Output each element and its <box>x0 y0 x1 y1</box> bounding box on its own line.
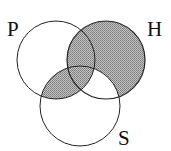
label-p: P <box>7 17 19 41</box>
label-h: H <box>147 17 162 41</box>
venn-diagram: P H S <box>0 0 171 151</box>
label-s: S <box>118 126 130 150</box>
